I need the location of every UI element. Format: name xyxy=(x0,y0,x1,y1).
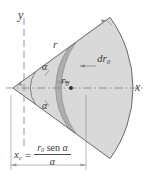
element-thickness-label: dr₀ xyxy=(97,53,111,64)
angle-label-upper: α xyxy=(42,62,47,72)
centroid-formula: xc = r0 sen α α xyxy=(14,142,71,167)
formula-fraction: r0 sen α α xyxy=(34,142,71,167)
circular-sector-centroid-figure: y x r r₀ dr₀ α α xc = r0 sen α α xyxy=(0,0,148,185)
outer-radius-label: r xyxy=(53,39,57,50)
element-radius-label: r₀ xyxy=(61,75,69,86)
angle-label-lower: α xyxy=(42,101,47,111)
formula-denominator: α xyxy=(34,154,71,167)
x-axis-label: x xyxy=(135,81,140,93)
formula-equals: = xyxy=(25,149,31,161)
centroid-point-marker xyxy=(69,86,73,90)
formula-numerator: r0 sen α xyxy=(34,142,71,154)
y-axis-label: y xyxy=(18,9,23,21)
formula-lhs: xc xyxy=(14,148,22,161)
